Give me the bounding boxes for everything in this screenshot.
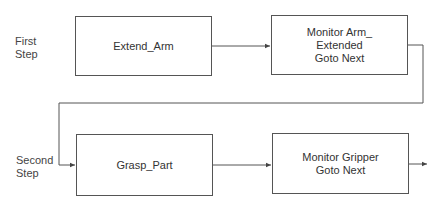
label-line: Second [16,154,53,167]
grasp-part-box: Grasp_Part [76,134,213,196]
extend-arm-box: Extend_Arm [75,16,212,76]
monitor-gripper-box: Monitor Gripper Goto Next [272,133,409,194]
box-text: Goto Next [316,164,366,177]
box-text: Grasp_Part [116,159,172,172]
monitor-arm-extended-box: Monitor Arm_ Extended Goto Next [271,15,408,75]
box-text: Monitor Arm_ [307,26,372,39]
second-step-label: Second Step [16,154,53,180]
label-line: Step [15,48,38,61]
box-text: Monitor Gripper [302,151,378,164]
box-text: Goto Next [315,52,365,65]
box-text: Extended [316,39,362,52]
box-text: Extend_Arm [113,40,174,53]
label-line: First [15,35,38,48]
label-line: Step [16,167,53,180]
first-step-label: First Step [15,35,38,61]
